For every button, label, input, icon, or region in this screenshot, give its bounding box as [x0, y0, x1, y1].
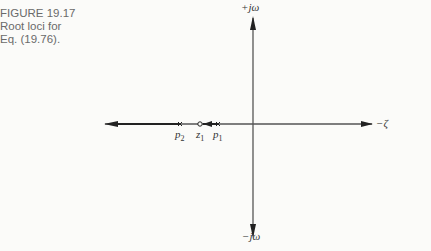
root-locus-plot [0, 0, 431, 251]
zero-z1-label: z1 [196, 128, 204, 143]
arrow-right-icon [361, 121, 373, 127]
pole-p1-sub: 1 [219, 134, 223, 143]
zero-z1-marker-icon [198, 122, 202, 126]
pole-p2-label: p2 [175, 128, 185, 143]
zero-z1-sub: 1 [200, 134, 204, 143]
positive-imag-axis-label: +jω [241, 1, 259, 13]
pole-p1-label: p1 [213, 128, 223, 143]
real-axis-label: −ζ [376, 117, 388, 129]
arrow-up-icon [250, 16, 256, 30]
negative-imag-axis-label: −jω [242, 230, 260, 242]
locus-arrow-icon [203, 121, 212, 127]
pole-p2-sub: 2 [181, 134, 185, 143]
